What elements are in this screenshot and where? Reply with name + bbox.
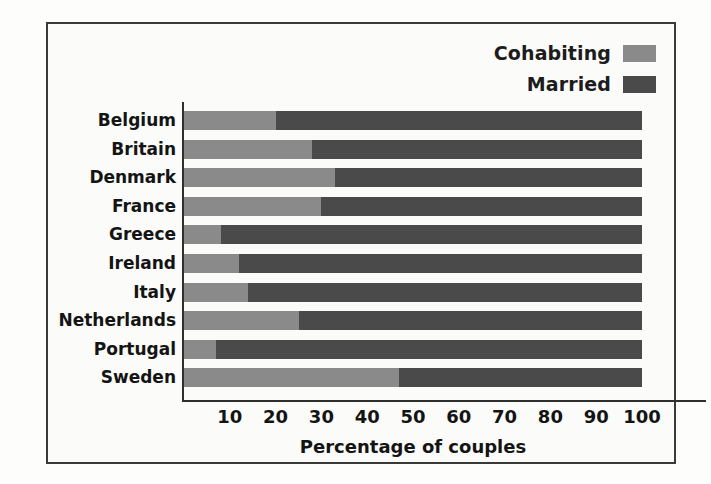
bar-segment [184,254,239,273]
legend-item-label: Married [527,73,611,95]
bar-segment [312,140,642,159]
legend-swatch [623,45,656,62]
bar-row: Netherlands [184,311,642,330]
bar-row: Ireland [184,254,642,273]
y-axis-tick-label: Greece [109,223,176,245]
x-axis-tick-label: 40 [355,406,380,427]
bar-row: Britain [184,140,642,159]
bar-segment [184,140,312,159]
bar-segment [184,283,248,302]
bar-segment [216,340,642,359]
legend-item[interactable]: Married [527,73,656,95]
bar-segment [321,197,642,216]
legend-item[interactable]: Cohabiting [494,42,656,64]
bar-row: Denmark [184,168,642,187]
x-axis-tick-label: 60 [446,406,471,427]
bar-segment [184,111,276,130]
y-axis-tick-label: Denmark [89,166,176,188]
bar-segment [184,340,216,359]
bar-segment [184,168,335,187]
bar-row: France [184,197,642,216]
x-axis-tick-label: 80 [538,406,563,427]
x-axis-title: Percentage of couples [184,436,642,457]
bar-row: Portugal [184,340,642,359]
legend-swatch [623,76,656,93]
bar-segment [221,225,642,244]
y-axis-tick-label: Sweden [101,366,176,388]
legend-item-label: Cohabiting [494,42,611,64]
y-axis-tick-label: Belgium [98,109,176,131]
bar-segment [248,283,642,302]
y-axis-tick-label: Portugal [94,338,176,360]
y-axis-tick-label: France [112,195,176,217]
y-axis-tick-label: Italy [133,281,176,303]
bar-segment [184,368,399,387]
chart-legend: CohabitingMarried [494,42,656,95]
figure-frame: CohabitingMarried BelgiumBritainDenmarkF… [46,22,676,464]
chart-figure: CohabitingMarried BelgiumBritainDenmarkF… [0,0,711,484]
y-axis-tick-label: Netherlands [58,309,176,331]
bar-row: Greece [184,225,642,244]
x-axis-tick-label: 10 [217,406,242,427]
bar-segment [299,311,643,330]
x-axis-tick-label: 30 [309,406,334,427]
bar-segment [399,368,642,387]
bar-segment [239,254,642,273]
bar-segment [276,111,642,130]
x-axis-tick-label: 50 [400,406,425,427]
x-axis-tick-label: 100 [623,406,661,427]
x-axis-tick-label: 90 [584,406,609,427]
bar-row: Belgium [184,111,642,130]
bar-segment [184,197,321,216]
y-axis-tick-label: Britain [111,138,176,160]
bar-row: Sweden [184,368,642,387]
x-axis-tick-label: 20 [263,406,288,427]
bar-row: Italy [184,283,642,302]
x-axis-tick-label: 70 [492,406,517,427]
bar-segment [335,168,642,187]
bar-segment [184,311,299,330]
y-axis-tick-label: Ireland [108,252,176,274]
x-axis-line [182,400,706,402]
plot-area: BelgiumBritainDenmarkFranceGreeceIreland… [184,102,642,400]
bar-segment [184,225,221,244]
